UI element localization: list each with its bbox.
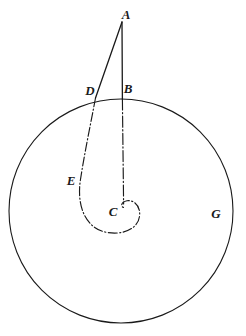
figure-canvas (0, 0, 246, 336)
line-B-C (122, 99, 123, 204)
label-point-a: A (122, 8, 131, 21)
label-point-d: D (85, 84, 94, 97)
label-point-g: G (211, 207, 220, 220)
label-point-e: E (67, 174, 76, 187)
main-circle (9, 99, 233, 323)
label-point-c: C (109, 205, 118, 218)
segment-A-D (96, 22, 123, 98)
geometric-figure: A B D E C G (0, 0, 246, 336)
label-point-b: B (124, 82, 133, 95)
